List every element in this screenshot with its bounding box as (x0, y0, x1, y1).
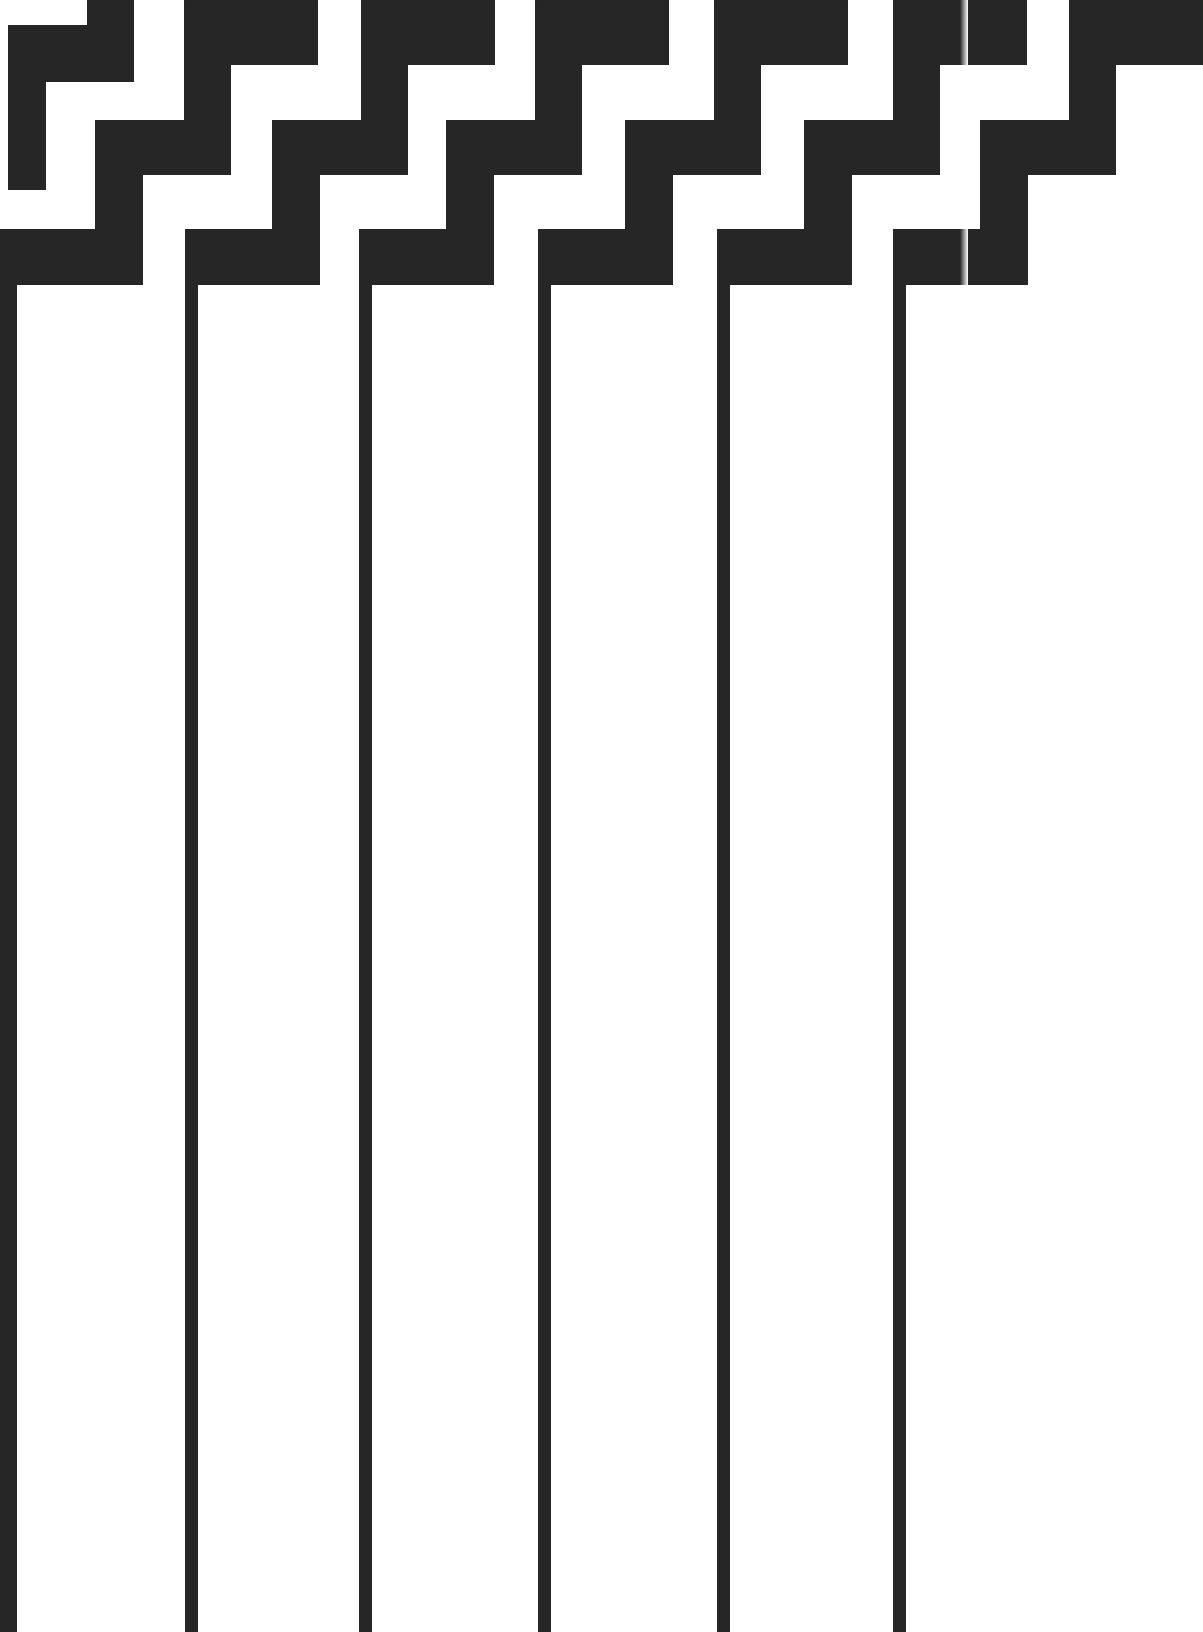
top-blob (716, 0, 846, 8)
step-riser (8, 82, 46, 190)
vertical-stripe (893, 285, 906, 1632)
vertical-stripe (0, 229, 17, 1632)
top-blob (1071, 0, 1201, 8)
step-top-bar (8, 25, 134, 82)
vertical-stripe (538, 285, 551, 1632)
step-top-bar (184, 0, 318, 65)
step-top-bar (714, 0, 848, 65)
step-top-bar (361, 0, 495, 65)
top-blob (186, 0, 316, 8)
top-blob (363, 0, 493, 8)
vertical-stripe (359, 285, 372, 1632)
step-top-bar (535, 0, 669, 65)
step-top-bar (1069, 0, 1203, 65)
top-blob (537, 0, 667, 8)
vertical-stripe (185, 285, 198, 1632)
step-top-nub (87, 0, 134, 25)
right-edge-fade (960, 0, 968, 1632)
vertical-stripe (717, 285, 730, 1632)
